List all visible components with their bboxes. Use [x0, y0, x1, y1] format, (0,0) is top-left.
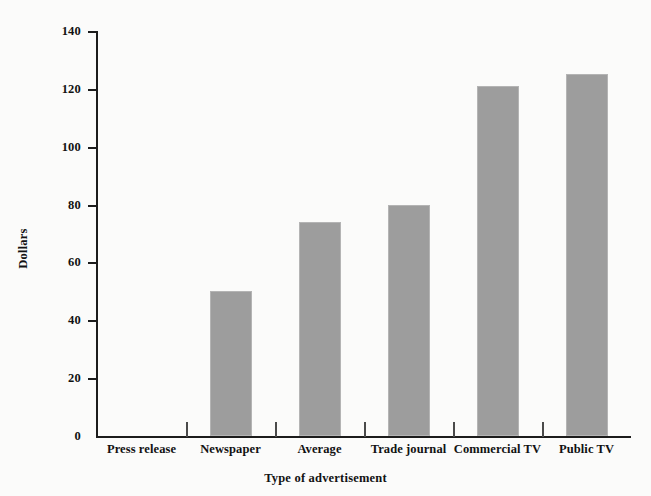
y-axis-tick-mark [88, 147, 97, 149]
x-axis-tick-label: Average [275, 443, 364, 456]
y-axis-title: Dollars [11, 0, 35, 496]
y-axis-tick-label: 100 [35, 141, 81, 154]
y-axis-tick-mark [88, 89, 97, 91]
x-axis-tick-mark [542, 422, 544, 437]
y-axis-tick-label: 20 [35, 372, 81, 385]
y-axis-tick-mark [88, 31, 97, 33]
x-axis-tick-mark [275, 422, 277, 437]
y-axis-tick-mark [88, 320, 97, 322]
y-axis-tick-label: 0 [35, 430, 81, 443]
y-axis-line [96, 31, 98, 438]
y-axis-tick-label: 80 [35, 199, 81, 212]
bar [566, 74, 608, 436]
y-axis-tick-label: 120 [35, 83, 81, 96]
x-axis-tick-label: Commercial TV [453, 443, 542, 456]
y-axis-tick-label: 60 [35, 256, 81, 269]
y-axis-tick-mark [88, 205, 97, 207]
bar [388, 205, 430, 436]
y-axis-title-text: Dollars [16, 228, 31, 268]
y-axis-tick-label: 140 [35, 25, 81, 38]
y-axis-tick-mark [88, 262, 97, 264]
x-axis-title: Type of advertisement [0, 471, 651, 486]
y-axis-tick-label: 40 [35, 314, 81, 327]
x-axis-tick-label: Public TV [542, 443, 631, 456]
x-axis-tick-label: Trade journal [364, 443, 453, 456]
bar [299, 222, 341, 436]
x-axis-tick-mark [186, 422, 188, 437]
bar [210, 291, 252, 436]
bar-chart: 020406080100120140 Press releaseNewspape… [0, 0, 651, 496]
bar [477, 86, 519, 436]
x-axis-tick-mark [364, 422, 366, 437]
x-axis-tick-label: Newspaper [186, 443, 275, 456]
x-axis-tick-mark [453, 422, 455, 437]
y-axis-tick-mark [88, 378, 97, 380]
x-axis-tick-label: Press release [97, 443, 186, 456]
